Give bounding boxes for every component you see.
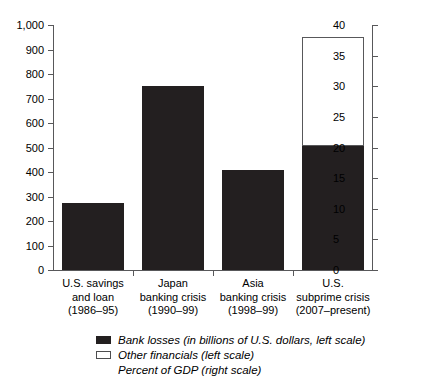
- bar-group: [62, 25, 124, 270]
- x-axis-tick: [133, 271, 134, 276]
- right-axis-tick-label: 25: [333, 112, 345, 123]
- legend-item: Other financials (left scale): [96, 347, 416, 362]
- left-axis-tick-label: 100: [0, 241, 44, 252]
- left-axis-tick-label: 600: [0, 118, 44, 129]
- left-axis-tick-label: 400: [0, 167, 44, 178]
- x-axis-tick: [293, 271, 294, 276]
- bar-group: [222, 25, 284, 270]
- right-axis-tick-label: 35: [333, 51, 345, 62]
- left-axis-tick-label: 500: [0, 143, 44, 154]
- left-axis-tick: [48, 270, 53, 271]
- left-axis-tick-label: 900: [0, 45, 44, 56]
- right-axis-tick: [373, 117, 378, 118]
- bar-segment-bank-losses: [142, 86, 204, 270]
- bar-segment-bank-losses: [62, 203, 124, 270]
- left-axis-tick-label: 800: [0, 69, 44, 80]
- left-axis-line: [53, 25, 54, 271]
- right-axis-tick: [373, 178, 378, 179]
- right-axis-tick: [373, 209, 378, 210]
- left-axis-tick-label: 1,000: [0, 20, 44, 31]
- x-axis-category-label: U.S.subprime crisis(2007–present): [285, 277, 381, 318]
- legend-swatch-filled: [96, 336, 111, 344]
- x-axis-category-labels: U.S. savingsand loan(1986–95)Japanbankin…: [53, 277, 373, 325]
- chart-legend: Bank losses (in billions of U.S. dollars…: [96, 332, 416, 377]
- plot-area: [53, 25, 373, 270]
- category-label-line: subprime crisis: [285, 291, 381, 305]
- category-label-line: (2007–present): [285, 304, 381, 318]
- left-axis-tick: [48, 172, 53, 173]
- right-axis-tick-label: 30: [333, 81, 345, 92]
- legend-item: Percent of GDP (right scale): [96, 362, 416, 377]
- left-axis-tick-label: 300: [0, 192, 44, 203]
- right-axis-tick-label: 5: [333, 234, 339, 245]
- left-axis-tick: [48, 99, 53, 100]
- left-axis-tick: [48, 123, 53, 124]
- legend-swatch-none: [96, 366, 111, 374]
- legend-label: Percent of GDP (right scale): [118, 364, 261, 376]
- right-axis-tick: [373, 25, 378, 26]
- left-axis-tick-label: 200: [0, 216, 44, 227]
- bar-chart: 01002003004005006007008009001,000 051015…: [0, 0, 426, 391]
- right-axis-tick: [373, 148, 378, 149]
- right-axis-tick: [373, 86, 378, 87]
- left-axis-tick: [48, 246, 53, 247]
- left-axis-tick-label: 0: [0, 265, 44, 276]
- left-axis-tick: [48, 74, 53, 75]
- bar-group: [142, 25, 204, 270]
- left-axis-tick-label: 700: [0, 94, 44, 105]
- legend-label: Other financials (left scale): [118, 349, 254, 361]
- bar-segment-bank-losses: [222, 170, 284, 270]
- category-label-line: U.S.: [285, 277, 381, 291]
- legend-item: Bank losses (in billions of U.S. dollars…: [96, 332, 416, 347]
- right-axis-tick-label: 10: [333, 204, 345, 215]
- left-axis-tick: [48, 148, 53, 149]
- right-axis-tick-label: 40: [333, 20, 345, 31]
- left-axis-tick: [48, 197, 53, 198]
- right-axis-tick: [373, 270, 378, 271]
- right-axis-tick-label: 20: [333, 143, 345, 154]
- left-axis-tick: [48, 25, 53, 26]
- x-axis-tick: [213, 271, 214, 276]
- legend-label: Bank losses (in billions of U.S. dollars…: [118, 334, 365, 346]
- right-axis-tick: [373, 239, 378, 240]
- right-axis-tick: [373, 56, 378, 57]
- left-axis-tick: [48, 221, 53, 222]
- right-axis-tick-label: 15: [333, 173, 345, 184]
- left-axis-tick: [48, 50, 53, 51]
- legend-swatch-open: [96, 351, 111, 359]
- right-axis-tick-label: 0: [333, 265, 339, 276]
